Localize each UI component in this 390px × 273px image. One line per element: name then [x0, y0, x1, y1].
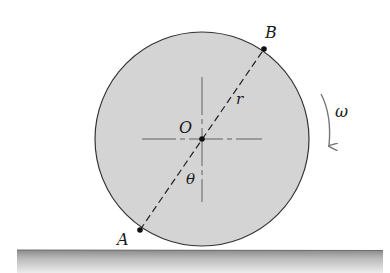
label-center-o: O — [179, 118, 192, 137]
label-point-b: B — [264, 23, 277, 42]
rolling-disk-diagram: B A O r θ ω — [0, 0, 390, 273]
center-point-marker — [199, 136, 205, 142]
label-angle-theta: θ — [186, 170, 195, 188]
label-radius-r: r — [236, 90, 244, 108]
label-omega: ω — [335, 102, 348, 121]
label-point-a: A — [115, 230, 129, 249]
point-a-marker — [137, 227, 143, 233]
ground — [17, 250, 383, 273]
point-b-marker — [261, 46, 267, 52]
angular-velocity-arrow-icon — [321, 94, 330, 146]
